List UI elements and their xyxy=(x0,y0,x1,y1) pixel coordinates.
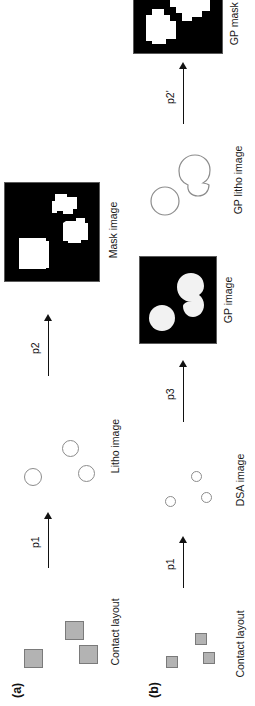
stage-b-gp-mask-image: GP mask image xyxy=(133,0,233,56)
stage-b-gp-image: GP image xyxy=(139,250,233,350)
arrow-shaft xyxy=(183,366,184,422)
contact-square xyxy=(65,621,84,640)
gp-litho-peanut xyxy=(179,155,210,196)
dsa-circle xyxy=(201,492,212,503)
b-contact-layout-scatter xyxy=(133,600,231,688)
contact-square xyxy=(79,645,98,664)
arrow-shaft xyxy=(48,320,49,376)
arrow-p1-panel-a-label: p1 xyxy=(29,536,41,548)
panel-b: (b) Contact layout p1 xyxy=(127,0,254,706)
arrow-head-icon xyxy=(179,62,187,69)
stage-b-contact-layout: Contact layout xyxy=(133,600,231,688)
arrow-shaft xyxy=(48,518,49,568)
dsa-circle xyxy=(165,496,176,507)
arrow-p3-panel-b-label: p3 xyxy=(164,388,176,400)
panel-a: (a) Contact layout p1 xyxy=(0,0,127,706)
mask-image-svg xyxy=(5,182,100,281)
arrow-p2-panel-a-label: p2 xyxy=(29,342,41,354)
arrow-p2prime-panel-b: p2' xyxy=(177,62,189,124)
a-contact-layout-scatter xyxy=(6,580,106,684)
dsa-circle xyxy=(191,471,202,482)
contact-square xyxy=(166,656,178,668)
stage-b-dsa-image-caption: DSA image xyxy=(234,432,246,528)
arrow-p1-panel-b-label: p1 xyxy=(164,558,176,570)
litho-circle xyxy=(24,468,42,486)
stage-a-litho-image-caption: Litho image xyxy=(109,394,121,498)
stage-b-gp-mask-image-caption: GP mask image xyxy=(228,0,240,58)
litho-circle xyxy=(62,440,79,457)
gp-litho-svg xyxy=(133,128,229,232)
litho-circle xyxy=(78,465,95,482)
gp-image-bitmap xyxy=(139,256,217,344)
gp-mask-image-svg xyxy=(134,0,223,53)
stage-a-mask-image-caption: Mask image xyxy=(107,170,119,290)
stage-b-dsa-image: DSA image xyxy=(133,436,231,524)
figure-canvas: (a) Contact layout p1 xyxy=(0,0,255,706)
mask-feature xyxy=(19,238,49,269)
gp-litho-circle xyxy=(151,187,179,215)
stage-a-contact-layout: Contact layout xyxy=(6,580,106,684)
figure-root: (a) Contact layout p1 xyxy=(0,0,255,706)
stage-a-contact-layout-caption: Contact layout xyxy=(109,580,121,684)
arrow-head-icon xyxy=(179,536,187,543)
stage-b-gp-image-caption: GP image xyxy=(222,250,234,350)
contact-square xyxy=(203,652,215,664)
arrow-p2-panel-a: p2 xyxy=(42,314,54,376)
arrow-shaft xyxy=(183,542,184,588)
contact-square xyxy=(195,633,207,645)
arrow-head-icon xyxy=(44,314,52,321)
arrow-p1-panel-a: p1 xyxy=(42,512,54,568)
mask-image-bitmap xyxy=(4,182,100,282)
contact-square xyxy=(24,649,43,668)
arrow-p3-panel-b: p3 xyxy=(177,360,189,422)
stage-b-gp-litho-image-caption: GP litho image xyxy=(232,128,244,232)
stage-a-mask-image: Mask image xyxy=(4,170,108,290)
a-litho-image-scatter xyxy=(6,394,106,498)
gp-mask-image-bitmap xyxy=(133,0,223,54)
arrow-head-icon xyxy=(44,512,52,519)
stage-a-litho-image: Litho image xyxy=(6,394,106,498)
stage-b-contact-layout-caption: Contact layout xyxy=(234,592,246,696)
arrow-head-icon xyxy=(179,360,187,367)
gp-image-svg xyxy=(140,256,217,343)
arrow-p1-panel-b: p1 xyxy=(177,536,189,588)
b-dsa-image-scatter xyxy=(133,436,231,524)
panel-a-tag: (a) xyxy=(10,683,24,698)
mask-feature xyxy=(63,218,88,243)
gp-litho-outline xyxy=(133,128,229,232)
gp-blob xyxy=(149,305,175,331)
stage-b-gp-litho-image: GP litho image xyxy=(133,128,231,232)
arrow-shaft xyxy=(183,68,184,124)
arrow-p2prime-panel-b-label: p2' xyxy=(164,90,176,104)
